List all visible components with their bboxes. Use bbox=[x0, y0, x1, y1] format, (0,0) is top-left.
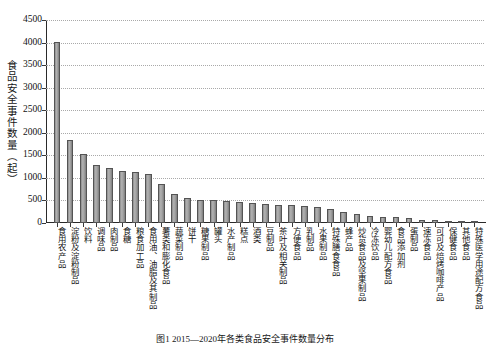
x-axis-category-label: 婴幼儿配方食品 bbox=[377, 227, 390, 284]
bar[interactable] bbox=[184, 198, 191, 223]
bar[interactable] bbox=[314, 207, 321, 223]
bar[interactable] bbox=[367, 216, 374, 223]
bar[interactable] bbox=[171, 194, 178, 223]
x-axis-category-label: 水产制品 bbox=[220, 227, 233, 260]
x-axis-category-label: 方便食品 bbox=[286, 227, 299, 260]
x-axis-category-label: 特殊医学用途配方食品 bbox=[468, 227, 481, 309]
bar[interactable] bbox=[275, 205, 282, 223]
x-axis-category-label: 肉制品 bbox=[103, 227, 116, 252]
x-axis-category-label: 调味品 bbox=[90, 227, 103, 252]
x-axis-category-label: 炒货食品及坚果制品 bbox=[351, 227, 364, 301]
gridline bbox=[46, 155, 484, 156]
bar[interactable] bbox=[262, 204, 269, 223]
y-axis-tick bbox=[42, 65, 46, 66]
y-axis-tick-labels: 450040003500300025002000150010005000 bbox=[0, 0, 42, 348]
x-axis-category-label: 可可及焙烤咖啡产品 bbox=[429, 227, 442, 301]
bar[interactable] bbox=[210, 200, 217, 223]
x-axis-category-label: 食用油、油脂及其制品 bbox=[142, 227, 155, 309]
y-axis-tick bbox=[42, 20, 46, 21]
y-axis-tick-label: 3000 bbox=[8, 83, 42, 93]
bar[interactable] bbox=[80, 154, 87, 223]
x-axis-category-label: 保健食品 bbox=[442, 227, 455, 260]
x-axis-category-label: 其他食品 bbox=[455, 227, 468, 260]
bar[interactable] bbox=[93, 165, 100, 223]
bar[interactable] bbox=[158, 184, 165, 223]
x-axis-category-label: 薯类和膨化食品 bbox=[155, 227, 168, 284]
x-axis-category-label: 粮食加工品 bbox=[129, 227, 142, 268]
gridline bbox=[46, 20, 484, 21]
y-axis-tick-label: 500 bbox=[8, 195, 42, 205]
x-axis-category-label: 食品添加剂 bbox=[390, 227, 403, 268]
gridline bbox=[46, 110, 484, 111]
y-axis-tick bbox=[42, 43, 46, 44]
x-axis-category-label: 蔬菜制品 bbox=[168, 227, 181, 260]
bar[interactable] bbox=[327, 209, 334, 223]
x-axis-category-label: 茶叶及相关制品 bbox=[272, 227, 285, 284]
x-axis-category-label: 蜂产品 bbox=[338, 227, 351, 252]
bar[interactable] bbox=[67, 140, 74, 223]
bar[interactable] bbox=[354, 214, 361, 223]
bar[interactable] bbox=[119, 171, 126, 223]
bar[interactable] bbox=[288, 205, 295, 223]
gridline bbox=[46, 43, 484, 44]
gridline bbox=[46, 88, 484, 89]
chart-figure: 食品安全事件数量（起） 4500400035003000250020001500… bbox=[0, 0, 490, 348]
x-axis-category-label: 豆制品 bbox=[259, 227, 272, 252]
x-axis-category-label: 速冻食品 bbox=[416, 227, 429, 260]
x-axis-category-label: 特殊膳食食品 bbox=[325, 227, 338, 276]
x-axis-category-label: 罐头 bbox=[207, 227, 220, 243]
x-axis-category-label: 糖果制品 bbox=[194, 227, 207, 260]
x-axis-category-label: 蛋制品 bbox=[403, 227, 416, 252]
bar[interactable] bbox=[54, 42, 61, 223]
y-axis-tick bbox=[42, 200, 46, 201]
x-axis-category-label: 食用农产品 bbox=[51, 227, 64, 268]
y-axis-tick bbox=[42, 88, 46, 89]
y-axis-tick bbox=[42, 178, 46, 179]
y-axis-tick-label: 1500 bbox=[8, 150, 42, 160]
bar[interactable] bbox=[301, 206, 308, 223]
bar[interactable] bbox=[132, 172, 139, 223]
bar[interactable] bbox=[106, 168, 113, 223]
bar[interactable] bbox=[340, 212, 347, 223]
y-axis-tick-label: 2500 bbox=[8, 105, 42, 115]
y-axis-tick-label: 0 bbox=[8, 218, 42, 228]
bar[interactable] bbox=[145, 174, 152, 223]
x-axis-category-label: 食糖 bbox=[116, 227, 129, 243]
bar[interactable] bbox=[236, 202, 243, 223]
x-axis-category-label: 饮料 bbox=[77, 227, 90, 243]
bar[interactable] bbox=[223, 201, 230, 223]
y-axis-tick-label: 3500 bbox=[8, 60, 42, 70]
y-axis-tick bbox=[42, 133, 46, 134]
x-axis-category-label: 淀粉及淀粉制品 bbox=[64, 227, 77, 284]
x-axis-category-label: 饼干 bbox=[181, 227, 194, 243]
y-axis-line bbox=[46, 20, 47, 223]
y-axis-tick-label: 4500 bbox=[8, 15, 42, 25]
gridline bbox=[46, 133, 484, 134]
figure-caption: 图1 2015—2020年各类食品安全事件数量分布 bbox=[0, 334, 490, 345]
x-axis-category-labels: 食用农产品淀粉及淀粉制品饮料调味品肉制品食糖粮食加工品食用油、油脂及其制品薯类和… bbox=[46, 227, 490, 339]
gridline bbox=[46, 65, 484, 66]
x-axis-category-label: 水果制品 bbox=[312, 227, 325, 260]
y-axis-tick-label: 4000 bbox=[8, 38, 42, 48]
bar[interactable] bbox=[249, 203, 256, 223]
x-axis-category-label: 冷冻饮品 bbox=[364, 227, 377, 260]
x-axis-category-label: 糕点 bbox=[233, 227, 246, 243]
y-axis-tick-label: 2000 bbox=[8, 128, 42, 138]
x-axis-category-label: 酒类 bbox=[246, 227, 259, 243]
y-axis-tick-label: 1000 bbox=[8, 173, 42, 183]
y-axis-tick bbox=[42, 110, 46, 111]
bar[interactable] bbox=[197, 200, 204, 223]
plot-area bbox=[46, 20, 484, 223]
y-axis-tick bbox=[42, 155, 46, 156]
x-axis-category-label: 乳制品 bbox=[299, 227, 312, 252]
